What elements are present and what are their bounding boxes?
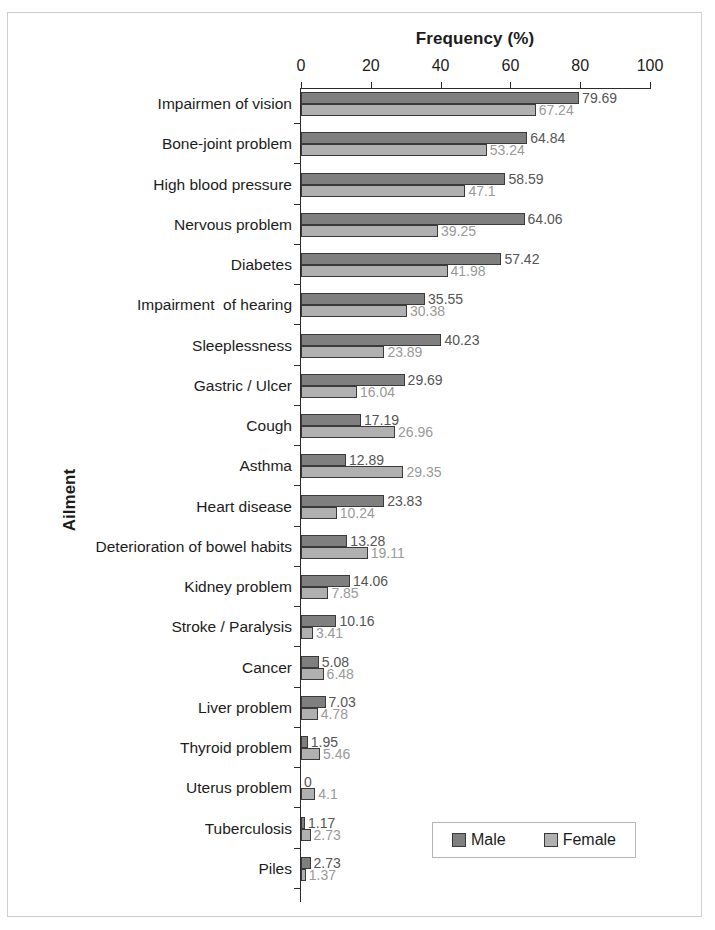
category-row: Heart disease23.8310.24	[0, 495, 715, 519]
bar-value-female: 19.11	[371, 545, 405, 561]
bar-female	[301, 144, 487, 156]
x-tick-mark	[510, 82, 511, 89]
category-label: Impairment of hearing	[137, 296, 292, 314]
category-label: Deterioration of bowel habits	[96, 538, 292, 556]
bar-value-female: 6.48	[327, 666, 354, 682]
x-tick-mark	[580, 82, 581, 89]
category-row: Nervous problem64.0639.25	[0, 213, 715, 237]
bar-female	[301, 668, 324, 680]
bar-value-male: 57.42	[504, 251, 539, 267]
bar-value-male: 64.84	[530, 130, 565, 146]
category-row: Bone-joint problem64.8453.24	[0, 132, 715, 156]
y-tick-mark	[294, 606, 301, 607]
x-tick-label: 80	[550, 57, 610, 75]
category-label: Impairmen of vision	[158, 95, 292, 113]
bar-male	[301, 414, 361, 426]
bar-female	[301, 104, 536, 116]
bar-female	[301, 305, 407, 317]
category-row: Liver problem7.034.78	[0, 696, 715, 720]
x-tick-mark	[371, 82, 372, 89]
category-label: Thyroid problem	[180, 739, 292, 757]
x-axis-tick-labels: 020406080100	[0, 57, 715, 79]
y-tick-mark	[294, 365, 301, 366]
category-row: High blood pressure58.5947.1	[0, 173, 715, 197]
bar-value-female: 41.98	[451, 263, 486, 279]
y-tick-mark	[294, 405, 301, 406]
bar-value-female: 1.37	[309, 867, 336, 883]
category-label: Nervous problem	[174, 216, 292, 234]
x-tick-label: 0	[271, 57, 331, 75]
bar-value-female: 23.89	[387, 344, 422, 360]
bar-value-male: 10.16	[339, 613, 374, 629]
category-label: High blood pressure	[153, 176, 292, 194]
bar-male	[301, 454, 346, 466]
y-tick-mark	[294, 767, 301, 768]
category-row: Deterioration of bowel habits13.2819.11	[0, 535, 715, 559]
bar-value-female: 26.96	[398, 424, 433, 440]
legend-swatch-icon	[544, 833, 558, 847]
y-tick-mark	[294, 807, 301, 808]
bar-male	[301, 92, 579, 104]
category-label: Piles	[258, 860, 292, 878]
bar-value-female: 30.38	[410, 303, 445, 319]
bar-value-female: 7.85	[331, 585, 358, 601]
bar-value-female: 4.78	[321, 706, 348, 722]
category-label: Diabetes	[231, 256, 292, 274]
y-tick-mark	[294, 646, 301, 647]
category-row: Thyroid problem1.955.46	[0, 736, 715, 760]
category-label: Uterus problem	[186, 779, 292, 797]
bar-value-female: 16.04	[360, 384, 395, 400]
x-tick-label: 20	[341, 57, 401, 75]
bar-female	[301, 225, 438, 237]
bar-value-male: 64.06	[528, 211, 563, 227]
x-tick-label: 100	[620, 57, 680, 75]
bar-female	[301, 587, 328, 599]
bar-value-female: 4.1	[318, 786, 337, 802]
x-tick-label: 40	[411, 57, 471, 75]
bar-female	[301, 547, 368, 559]
bar-female	[301, 748, 320, 760]
y-tick-mark	[294, 566, 301, 567]
legend-label: Female	[563, 831, 616, 849]
bar-chart: Frequency (%) 020406080100 Ailment Impai…	[0, 0, 715, 930]
bar-value-male: 79.69	[582, 90, 617, 106]
bar-female	[301, 466, 403, 478]
bar-female	[301, 426, 395, 438]
bar-male	[301, 213, 525, 225]
legend-entry: Female	[544, 831, 616, 849]
x-axis-line	[300, 88, 650, 89]
bar-value-female: 53.24	[490, 142, 525, 158]
bar-value-female: 39.25	[441, 223, 476, 239]
bar-male	[301, 656, 319, 668]
x-tick-label: 60	[480, 57, 540, 75]
bar-female	[301, 507, 337, 519]
bar-male	[301, 293, 425, 305]
category-row: Impairment of hearing35.5530.38	[0, 293, 715, 317]
bar-male	[301, 817, 305, 829]
y-tick-mark	[294, 445, 301, 446]
bar-value-female: 67.24	[539, 102, 574, 118]
bar-value-female: 47.1	[468, 183, 495, 199]
bar-female	[301, 829, 311, 841]
bar-female	[301, 185, 465, 197]
bar-value-female: 10.24	[340, 505, 375, 521]
y-tick-mark	[294, 163, 301, 164]
category-row: Kidney problem14.067.85	[0, 575, 715, 599]
bar-male	[301, 736, 308, 748]
category-row: Cancer5.086.48	[0, 656, 715, 680]
bar-value-female: 2.73	[314, 827, 341, 843]
legend-swatch-icon	[452, 833, 466, 847]
y-tick-mark	[294, 244, 301, 245]
bar-female	[301, 386, 357, 398]
chart-legend: MaleFemale	[432, 822, 636, 858]
bar-female	[301, 265, 448, 277]
bar-value-male: 58.59	[508, 171, 543, 187]
bar-value-female: 29.35	[406, 464, 441, 480]
category-label: Bone-joint problem	[162, 135, 292, 153]
category-label: Stroke / Paralysis	[171, 618, 292, 636]
category-label: Asthma	[239, 457, 292, 475]
category-row: Sleeplessness40.2323.89	[0, 334, 715, 358]
category-label: Kidney problem	[184, 578, 292, 596]
y-tick-mark	[294, 284, 301, 285]
bar-female	[301, 708, 318, 720]
